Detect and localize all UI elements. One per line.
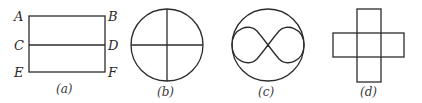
figure-a: A B C D E F (a) [13,9,119,96]
label-a: A [13,9,23,24]
figure-d: (d) [333,9,404,99]
rectangle-abef [29,16,105,72]
caption-c: (c) [258,85,274,99]
figure-eight-curve [232,27,304,62]
caption-a: (a) [56,82,73,96]
label-e: E [13,65,24,80]
label-d: D [107,38,119,53]
label-f: F [107,65,118,80]
figure-c: (c) [232,9,304,99]
caption-d: (d) [360,85,377,99]
diagram-canvas: A B C D E F (a) (b) (c) (d) [0,0,422,103]
cross-horizontal-bar [333,33,404,57]
label-b: B [107,9,118,24]
label-c: C [14,38,24,53]
caption-b: (b) [157,85,174,99]
figure-b: (b) [131,9,203,99]
cross-vertical-bar [357,9,381,82]
